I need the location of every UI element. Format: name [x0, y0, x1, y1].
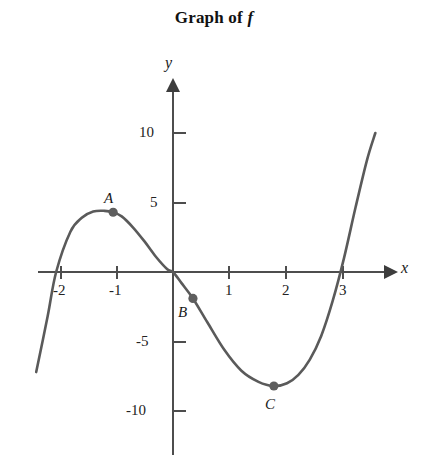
x-tick-label--1: -1 [109, 282, 122, 299]
x-tick-label--2: -2 [53, 282, 66, 299]
marked-points-group [109, 208, 279, 391]
y-tick-label--5: -5 [136, 333, 149, 350]
plot-canvas [0, 0, 428, 458]
graph-figure: Graph of f -2 -1 1 2 3 10 5 -5 -10 y x A… [0, 0, 428, 458]
marked-point-b [188, 294, 197, 303]
y-tick-label-10: 10 [139, 124, 154, 141]
x-tick-label-2: 2 [282, 282, 290, 299]
y-tick-label--10: -10 [126, 402, 146, 419]
y-tick-label-5: 5 [150, 194, 158, 211]
marked-point-a [109, 208, 118, 217]
function-curve [36, 133, 375, 386]
point-label-b: B [178, 304, 187, 321]
marked-point-c [269, 381, 278, 390]
point-label-a: A [104, 190, 113, 207]
x-tick-label-1: 1 [225, 282, 233, 299]
x-axis-label: x [401, 259, 408, 277]
x-axis-arrow-icon [384, 265, 398, 279]
x-tick-label-3: 3 [339, 282, 347, 299]
y-axis-arrow-icon [166, 78, 180, 92]
y-axis-label: y [165, 54, 172, 72]
point-label-c: C [265, 396, 275, 413]
